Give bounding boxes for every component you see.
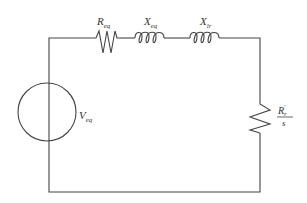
svg-text:Rr′: Rr′ <box>277 103 287 118</box>
resistor-load-label: Rr′ s <box>277 103 293 128</box>
resistor-load-denominator: s <box>282 118 286 128</box>
voltage-source <box>18 83 76 141</box>
inductor-x-eq <box>135 32 164 43</box>
resistor-r-eq <box>93 31 120 53</box>
resistor-load <box>250 101 270 133</box>
circuit-diagram: Veq Req Xeq Xlr Rr′ s <box>0 0 307 203</box>
inductor-x-lr-label: Xlr <box>199 15 212 30</box>
inductor-x-eq-label: Xeq <box>143 15 158 30</box>
inductor-x-lr <box>190 32 219 43</box>
resistor-r-eq-label: Req <box>96 15 111 30</box>
voltage-source-label: Veq <box>79 109 93 124</box>
